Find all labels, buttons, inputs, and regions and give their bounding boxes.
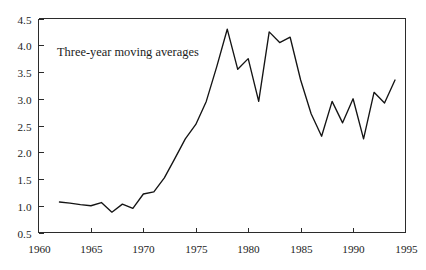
x-axis-labels: 19601965197019751980198519901995 <box>28 243 418 255</box>
x-tick-label: 1980 <box>237 243 260 255</box>
x-tick-label: 1960 <box>28 243 51 255</box>
x-tick-label: 1970 <box>132 243 155 255</box>
y-tick-label: 0.5 <box>18 228 32 240</box>
x-tick-label: 1975 <box>185 243 208 255</box>
y-axis-ticks <box>39 20 44 234</box>
chart-annotation-label: Three-year moving averages <box>57 45 199 59</box>
x-tick-label: 1995 <box>395 243 418 255</box>
x-axis-ticks <box>92 228 354 233</box>
x-tick-label: 1990 <box>342 243 365 255</box>
y-tick-label: 4.0 <box>18 40 32 52</box>
y-tick-label: 2.0 <box>18 147 32 159</box>
y-tick-label: 3.5 <box>18 67 32 79</box>
x-tick-label: 1985 <box>290 243 313 255</box>
y-tick-label: 1.5 <box>18 174 32 186</box>
line-chart: 0.51.01.52.02.53.03.54.04.5 196019651970… <box>0 0 426 270</box>
x-tick-label: 1965 <box>80 243 103 255</box>
y-tick-label: 3.0 <box>18 94 32 106</box>
y-tick-label: 2.5 <box>18 121 32 133</box>
y-axis-labels: 0.51.01.52.02.53.03.54.04.5 <box>18 14 32 240</box>
y-tick-label: 4.5 <box>18 14 32 26</box>
y-tick-label: 1.0 <box>18 201 32 213</box>
chart-container: 0.51.01.52.02.53.03.54.04.5 196019651970… <box>0 0 426 270</box>
